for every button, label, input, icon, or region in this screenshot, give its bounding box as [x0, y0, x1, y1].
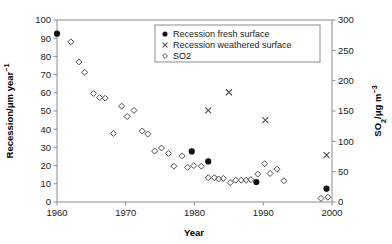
- y-axis-tick-label: 70: [40, 69, 51, 80]
- marker-filled-circle: [162, 31, 167, 36]
- y-axis-tick-label: 60: [40, 87, 51, 98]
- y-axis-title: Recession/μm year−1: [2, 64, 16, 159]
- chart-legend: Recession fresh surfaceRecession weather…: [155, 25, 320, 62]
- secondary-y-axis-tick-label: 250: [338, 45, 354, 56]
- x-axis-tick-label: 1980: [184, 207, 205, 218]
- recession-so2-scatter-chart: 0102030405060708090100050100150200250300…: [0, 0, 392, 244]
- marker-filled-circle: [54, 31, 60, 37]
- y-axis-tick-label: 50: [40, 105, 51, 116]
- marker-filled-circle: [323, 186, 329, 192]
- y-axis-tick-label: 100: [35, 14, 51, 25]
- x-axis-tick-label: 2000: [321, 207, 342, 218]
- legend-item-label: Recession weathered surface: [173, 40, 292, 50]
- secondary-y-axis-tick-label: 50: [338, 166, 349, 177]
- secondary-y-axis-tick-label: 100: [338, 136, 354, 147]
- y-axis-tick-label: 40: [40, 124, 51, 135]
- marker-filled-circle: [205, 158, 211, 164]
- secondary-y-axis-tick-label: 200: [338, 75, 354, 86]
- secondary-y-axis-tick-label: 0: [338, 196, 343, 207]
- y-axis-tick-label: 20: [40, 160, 51, 171]
- x-axis-title: Year: [184, 227, 204, 238]
- marker-filled-circle: [189, 148, 195, 154]
- x-axis-tick-label: 1970: [115, 207, 136, 218]
- secondary-y-axis-tick-label: 150: [338, 105, 354, 116]
- secondary-y-axis-tick-label: 300: [338, 14, 354, 25]
- x-axis-tick-label: 1990: [253, 207, 274, 218]
- y-axis-tick-label: 90: [40, 33, 51, 44]
- y-axis-tick-label: 10: [40, 178, 51, 189]
- y-axis-tick-label: 30: [40, 142, 51, 153]
- legend-item-label: Recession fresh surface: [173, 29, 270, 39]
- y-axis-tick-label: 80: [40, 51, 51, 62]
- y-axis-tick-label: 0: [46, 196, 51, 207]
- legend-item-label: SO2: [173, 51, 191, 61]
- x-axis-tick-label: 1960: [46, 207, 67, 218]
